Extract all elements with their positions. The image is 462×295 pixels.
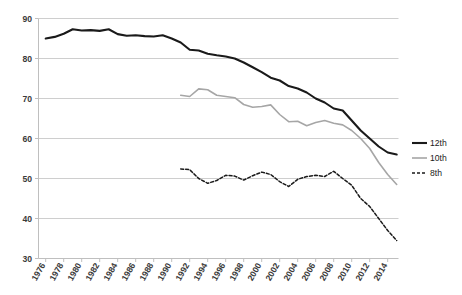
x-tick-label: 2012 — [353, 261, 371, 283]
x-tick-label: 1978 — [47, 261, 65, 283]
gridlines — [39, 19, 399, 219]
legend-label-10th: 10th — [430, 153, 447, 163]
x-tick-label: 2010 — [335, 261, 353, 283]
x-tick-label: 1994 — [191, 261, 209, 283]
legend-label-12th: 12th — [430, 138, 447, 148]
y-tick-label: 90 — [22, 14, 32, 24]
y-tick-label: 40 — [22, 214, 32, 224]
x-tick-label: 1988 — [137, 261, 155, 283]
series-line-10th — [181, 89, 397, 185]
x-tick-label: 2008 — [317, 261, 335, 283]
x-tick-label: 2014 — [371, 261, 389, 283]
x-tick-label: 1992 — [173, 261, 191, 283]
x-tick-label: 1990 — [155, 261, 173, 283]
x-tick-label: 2002 — [263, 261, 281, 283]
series-line-8th — [181, 169, 397, 241]
y-tick-label: 60 — [22, 134, 32, 144]
x-tick-label: 1980 — [65, 261, 83, 283]
line-chart: 30405060708090 1976197819801982198419861… — [0, 0, 462, 295]
x-tick-label: 1986 — [119, 261, 137, 283]
x-tick-label: 2006 — [299, 261, 317, 283]
y-tick-label: 80 — [22, 54, 32, 64]
series-line-12th — [46, 29, 397, 154]
x-tick-label: 1984 — [101, 261, 119, 283]
y-tick-label: 30 — [22, 254, 32, 264]
y-axis — [35, 19, 39, 259]
y-tick-label: 70 — [22, 94, 32, 104]
x-tick-label: 1996 — [209, 261, 227, 283]
chart-legend: 12th10th8th — [412, 138, 447, 178]
legend-label-8th: 8th — [430, 168, 442, 178]
x-tick-label: 1982 — [83, 261, 101, 283]
x-tick-label: 1976 — [29, 261, 47, 283]
x-tick-label: 2000 — [245, 261, 263, 283]
x-tick-label: 1998 — [227, 261, 245, 283]
series-lines — [46, 29, 397, 240]
chart-container: 30405060708090 1976197819801982198419861… — [0, 0, 462, 295]
x-tick-label: 2004 — [281, 261, 299, 283]
x-tick-labels: 1976197819801982198419861988199019921994… — [29, 261, 389, 283]
y-tick-labels: 30405060708090 — [22, 14, 32, 264]
y-tick-label: 50 — [22, 174, 32, 184]
